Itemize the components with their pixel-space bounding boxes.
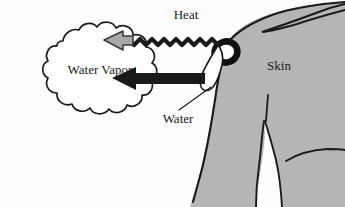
leader-line xyxy=(179,87,211,110)
water-vapor-label: Water Vapor xyxy=(68,62,133,77)
body-silhouette xyxy=(190,2,345,207)
diagram-canvas: Heat Water Vapor Skin Water xyxy=(0,0,345,207)
heat-zigzag xyxy=(122,39,218,45)
heat-wavy-arrow xyxy=(104,31,218,50)
evaporative-cooling-diagram: Heat Water Vapor Skin Water xyxy=(0,0,345,207)
water-label: Water xyxy=(163,111,194,126)
water-leader-line xyxy=(179,87,211,110)
heat-label: Heat xyxy=(174,7,199,22)
skin-label: Skin xyxy=(267,58,291,73)
